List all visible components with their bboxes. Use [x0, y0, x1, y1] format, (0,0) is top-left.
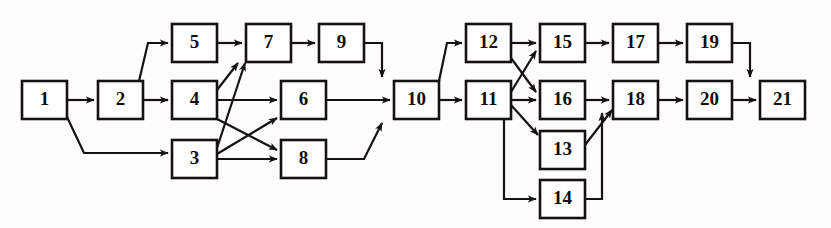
edge-19-to-21 — [732, 43, 750, 77]
graph-svg: 123456789101112131415161718192021 — [0, 0, 831, 228]
edge-8-to-10 — [326, 123, 382, 159]
node-1[interactable]: 1 — [22, 81, 67, 119]
edge-2-to-5 — [139, 43, 168, 81]
node-label-6: 6 — [299, 88, 309, 109]
node-15[interactable]: 15 — [540, 24, 585, 62]
edge-3-to-7 — [217, 63, 245, 148]
node-9[interactable]: 9 — [319, 24, 364, 62]
node-4[interactable]: 4 — [172, 81, 217, 119]
node-7[interactable]: 7 — [246, 24, 291, 62]
node-18[interactable]: 18 — [613, 81, 658, 119]
edge-10-to-12 — [439, 43, 462, 81]
node-label-1: 1 — [40, 88, 50, 109]
node-16[interactable]: 16 — [540, 81, 585, 119]
node-label-15: 15 — [553, 31, 572, 52]
node-label-2: 2 — [116, 88, 126, 109]
node-label-4: 4 — [190, 88, 200, 109]
node-label-12: 12 — [479, 31, 498, 52]
node-3[interactable]: 3 — [172, 140, 217, 178]
node-label-16: 16 — [553, 88, 572, 109]
node-2[interactable]: 2 — [98, 81, 143, 119]
node-label-20: 20 — [700, 88, 719, 109]
node-11[interactable]: 11 — [466, 81, 511, 119]
node-label-8: 8 — [299, 147, 309, 168]
node-label-13: 13 — [553, 138, 572, 159]
edge-layer — [67, 43, 756, 199]
edge-4-to-7 — [217, 63, 238, 90]
node-17[interactable]: 17 — [613, 24, 658, 62]
node-label-3: 3 — [190, 147, 200, 168]
node-5[interactable]: 5 — [172, 24, 217, 62]
edge-9-to-10 — [364, 43, 382, 77]
node-14[interactable]: 14 — [540, 180, 585, 218]
edge-13-to-18 — [585, 110, 612, 145]
node-label-11: 11 — [480, 88, 498, 109]
node-13[interactable]: 13 — [540, 131, 585, 169]
node-label-18: 18 — [626, 88, 645, 109]
edge-11-to-14 — [504, 119, 536, 199]
edge-1-to-3 — [67, 117, 168, 153]
node-label-21: 21 — [773, 88, 792, 109]
node-21[interactable]: 21 — [760, 81, 805, 119]
node-label-14: 14 — [553, 187, 573, 208]
node-label-19: 19 — [700, 31, 719, 52]
node-10[interactable]: 10 — [394, 81, 439, 119]
node-20[interactable]: 20 — [687, 81, 732, 119]
node-label-17: 17 — [626, 31, 646, 52]
node-12[interactable]: 12 — [466, 24, 511, 62]
node-label-5: 5 — [190, 31, 200, 52]
node-label-9: 9 — [337, 31, 347, 52]
node-6[interactable]: 6 — [281, 81, 326, 119]
node-label-10: 10 — [407, 88, 426, 109]
node-label-7: 7 — [264, 31, 274, 52]
diagram-canvas: 123456789101112131415161718192021 — [0, 0, 831, 228]
node-19[interactable]: 19 — [687, 24, 732, 62]
edge-11-to-13 — [511, 105, 538, 135]
node-8[interactable]: 8 — [281, 140, 326, 178]
node-layer: 123456789101112131415161718192021 — [22, 24, 805, 218]
